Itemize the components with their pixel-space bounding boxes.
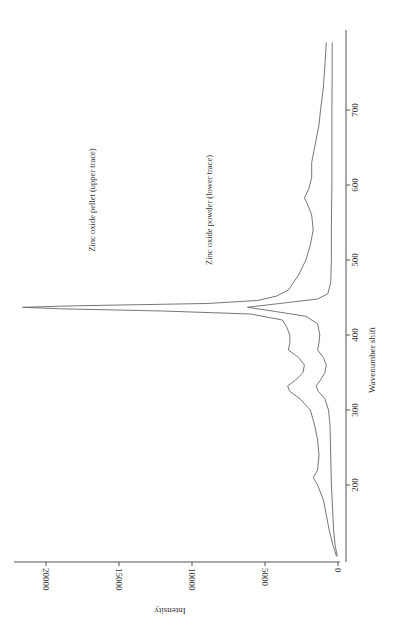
wavenumber-axis-label: Wavenumber shift [367, 327, 377, 394]
trace-annotations: Zinc oxide pellet (upper trace)Zinc oxid… [87, 148, 214, 265]
raman-spectrum-chart: 05000100001500020000 200300400500600700 … [0, 0, 396, 633]
intensity-ticks: 05000100001500020000 [41, 562, 343, 591]
intensity-axis-label: Intensity [154, 606, 186, 616]
wavenumber-tick-label: 200 [350, 478, 360, 492]
intensity-tick-label: 10000 [187, 568, 197, 591]
wavenumber-tick-label: 700 [350, 103, 360, 117]
wavenumber-tick-label: 300 [350, 403, 360, 417]
pellet-trace [23, 43, 337, 557]
wavenumber-tick-label: 400 [350, 328, 360, 342]
pellet-annotation: Zinc oxide pellet (upper trace) [87, 148, 97, 252]
intensity-tick-label: 0 [333, 568, 343, 573]
wavenumber-tick-label: 600 [350, 178, 360, 192]
intensity-tick-label: 5000 [260, 568, 270, 587]
intensity-tick-label: 20000 [41, 568, 51, 591]
wavenumber-tick-label: 500 [350, 253, 360, 267]
spectrum-traces [23, 43, 338, 557]
intensity-tick-label: 15000 [114, 568, 124, 591]
powder-annotation: Zinc oxide powder (lower trace) [204, 155, 214, 265]
wavenumber-ticks: 200300400500600700 [346, 103, 360, 492]
